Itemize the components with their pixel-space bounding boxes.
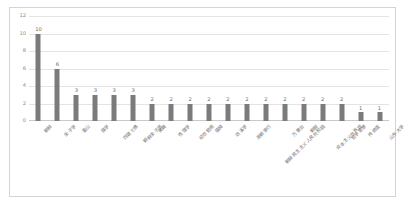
bar-group[interactable]: 1 bbox=[351, 16, 370, 121]
bar-group[interactable]: 2 bbox=[143, 16, 162, 121]
bar-group[interactable]: 3 bbox=[67, 16, 86, 121]
x-axis-category-label: 哲学思想 bbox=[350, 124, 367, 141]
bar-group[interactable]: 10 bbox=[29, 16, 48, 121]
bar-group[interactable]: 3 bbox=[86, 16, 105, 121]
bar[interactable] bbox=[131, 95, 136, 121]
bar-group[interactable]: 2 bbox=[200, 16, 219, 121]
bar-value-label: 2 bbox=[169, 97, 172, 102]
x-axis-category-label: 朱子学 bbox=[65, 124, 79, 138]
bar-value-label: 3 bbox=[75, 88, 78, 93]
bar-group[interactable]: 2 bbox=[256, 16, 275, 121]
bar[interactable] bbox=[150, 104, 155, 122]
y-axis-tick-label: 12 bbox=[19, 13, 26, 18]
y-axis-tick-label: 0 bbox=[23, 118, 26, 123]
bar-value-label: 2 bbox=[340, 97, 343, 102]
x-axis-category-label: 性理学 bbox=[178, 124, 192, 138]
bar[interactable] bbox=[339, 104, 344, 122]
bar[interactable] bbox=[74, 95, 79, 121]
bar-value-label: 2 bbox=[321, 97, 324, 102]
x-axis-labels: 朝鲜朱子学釜山儒学四端七情朝鲜朱子学美籍性理学经世致用儒释退溪学清朝使行朝鲜民主… bbox=[29, 122, 389, 198]
x-axis-category-label: 经世致用 bbox=[199, 124, 216, 141]
bar-value-label: 10 bbox=[35, 27, 42, 32]
bar-value-label: 1 bbox=[378, 106, 381, 111]
bar-value-label: 2 bbox=[150, 97, 153, 102]
x-axis-category-label: 四端七情 bbox=[123, 124, 140, 141]
plot-area: 10633332222222222211 bbox=[29, 16, 389, 121]
x-axis-category-label: 退溪学 bbox=[235, 124, 249, 138]
bar-group[interactable]: 2 bbox=[294, 16, 313, 121]
bar[interactable] bbox=[301, 104, 306, 122]
bar[interactable] bbox=[169, 104, 174, 122]
bar[interactable] bbox=[188, 104, 193, 122]
y-axis: 024681012 bbox=[10, 16, 29, 121]
x-axis-category-label: 清朝使行 bbox=[256, 124, 273, 141]
bar-group[interactable]: 6 bbox=[48, 16, 67, 121]
bar-group[interactable]: 2 bbox=[181, 16, 200, 121]
bar[interactable] bbox=[55, 69, 60, 122]
bar-group[interactable]: 2 bbox=[218, 16, 237, 121]
bar-group[interactable]: 2 bbox=[313, 16, 332, 121]
bar-value-label: 2 bbox=[188, 97, 191, 102]
x-axis-category-label: 儒释 bbox=[215, 124, 225, 134]
x-axis-category-label: 传统医 bbox=[368, 124, 382, 138]
bar[interactable] bbox=[112, 95, 117, 121]
x-axis-category-label: 釜山 bbox=[82, 124, 92, 134]
bar-value-label: 2 bbox=[283, 97, 286, 102]
bar-group[interactable]: 2 bbox=[237, 16, 256, 121]
bar[interactable] bbox=[244, 104, 249, 122]
chart-container: 024681012 10633332222222222211 朝鲜朱子学釜山儒学… bbox=[9, 7, 396, 197]
bar[interactable] bbox=[358, 112, 363, 121]
y-axis-tick-label: 8 bbox=[23, 48, 26, 53]
x-axis-category-label: 朝鲜 bbox=[44, 124, 54, 134]
y-axis-tick-label: 10 bbox=[19, 31, 26, 36]
bar-value-label: 2 bbox=[264, 97, 267, 102]
bar-group[interactable]: 2 bbox=[162, 16, 181, 121]
bar-value-label: 2 bbox=[302, 97, 305, 102]
bar-group[interactable]: 1 bbox=[370, 16, 389, 121]
bar-value-label: 3 bbox=[132, 88, 135, 93]
x-axis-category-label: 万景台 bbox=[292, 124, 306, 138]
bar[interactable] bbox=[206, 104, 211, 122]
y-axis-tick-label: 6 bbox=[23, 66, 26, 71]
bar-value-label: 1 bbox=[359, 106, 362, 111]
y-axis-tick-label: 2 bbox=[23, 101, 26, 106]
bar-group[interactable]: 2 bbox=[332, 16, 351, 121]
bar-value-label: 2 bbox=[245, 97, 248, 102]
bar[interactable] bbox=[320, 104, 325, 122]
bar-value-label: 2 bbox=[207, 97, 210, 102]
x-axis-category-label: 朝鲜民主主义人民共和国 bbox=[285, 124, 327, 166]
bar-group[interactable]: 2 bbox=[275, 16, 294, 121]
bar[interactable] bbox=[93, 95, 98, 121]
y-axis-tick-label: 4 bbox=[23, 83, 26, 88]
x-axis-category-label: 儒学 bbox=[101, 124, 111, 134]
bar-group[interactable]: 3 bbox=[124, 16, 143, 121]
bar-value-label: 3 bbox=[94, 88, 97, 93]
bar[interactable] bbox=[377, 112, 382, 121]
bar[interactable] bbox=[36, 34, 41, 122]
bar-value-label: 3 bbox=[113, 88, 116, 93]
bar[interactable] bbox=[282, 104, 287, 122]
bar-value-label: 6 bbox=[56, 62, 59, 67]
bar[interactable] bbox=[263, 104, 268, 122]
bar-group[interactable]: 3 bbox=[105, 16, 124, 121]
bar[interactable] bbox=[225, 104, 230, 122]
x-axis-category-label: 山东大学 bbox=[388, 124, 405, 141]
bar-value-label: 2 bbox=[226, 97, 229, 102]
